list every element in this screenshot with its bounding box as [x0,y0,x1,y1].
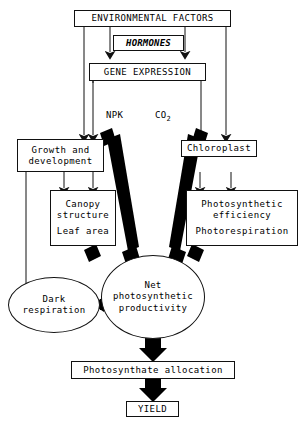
label-npk-text: NPK [106,110,123,120]
thick-arrow-canopy-to-net [84,244,101,262]
label-co2: CO2 [155,110,171,123]
label-co2-subscript: 2 [166,115,171,123]
node-growth-development[interactable]: Growth and development [17,139,104,172]
node-environmental-factors[interactable]: ENVIRONMENTAL FACTORS [74,10,231,27]
node-yield-label: YIELD [138,404,167,415]
thick-arrow-net-to-allocation [139,337,167,362]
diagram-canvas: ENVIRONMENTAL FACTORS HORMONES GENE EXPR… [0,0,305,422]
node-photosynthate-allocation[interactable]: Photosynthate allocation [71,361,235,379]
node-hormones[interactable]: HORMONES [113,35,184,51]
node-net-photosynthetic-productivity[interactable]: Net photosynthetic productivity [101,255,205,339]
node-dark-respiration-line1: Dark [43,294,66,305]
node-chloroplast-label: Chloroplast [187,143,251,154]
node-canopy-line3: Leaf area [57,226,109,237]
thick-arrow-photoeff-to-net [187,244,204,262]
node-gene-expression[interactable]: GENE EXPRESSION [89,63,206,81]
node-gene-expression-label: GENE EXPRESSION [104,67,191,78]
label-co2-text: CO [155,110,166,120]
node-photosynthate-allocation-label: Photosynthate allocation [83,365,223,376]
node-growth-development-line1: Growth and [31,145,89,156]
node-environmental-factors-label: ENVIRONMENTAL FACTORS [91,13,213,24]
node-growth-development-line2: development [28,156,92,167]
node-photoeff-line3: Photorespiration [195,226,288,237]
node-net-productivity-line1: Net [144,280,161,291]
label-npk: NPK [106,110,123,120]
node-photosynthetic-efficiency[interactable]: Photosynthetic efficiency Photorespirati… [186,190,298,246]
node-canopy-line2: structure [57,210,109,221]
node-photoeff-line1: Photosynthetic [201,199,282,210]
node-photoeff-line2: efficiency [213,210,271,221]
node-net-productivity-line3: productivity [119,303,188,314]
node-hormones-label: HORMONES [126,38,171,49]
node-canopy-structure[interactable]: Canopy structure Leaf area [50,190,116,246]
node-canopy-line1: Canopy [66,199,101,210]
thick-arrow-allocation-to-yield [139,379,167,402]
node-chloroplast[interactable]: Chloroplast [181,140,257,157]
node-net-productivity-line2: photosynthetic [113,291,193,302]
node-yield[interactable]: YIELD [126,401,179,417]
node-dark-respiration[interactable]: Dark respiration [8,277,100,333]
node-dark-respiration-line2: respiration [23,305,86,316]
